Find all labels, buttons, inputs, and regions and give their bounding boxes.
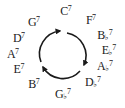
chord-extension: 7 bbox=[109, 28, 113, 37]
chord-extension: 7 bbox=[92, 13, 96, 22]
chord-extension: 7 bbox=[68, 4, 72, 13]
chord-extension: 7 bbox=[36, 15, 40, 24]
arrow-right-to-left bbox=[43, 67, 80, 79]
chord-extension: 7 bbox=[36, 77, 40, 86]
chord-e7: E7 bbox=[14, 61, 25, 78]
chord-f7: F7 bbox=[86, 12, 96, 29]
chord-root: B bbox=[97, 28, 105, 42]
chord-db7: D♭7 bbox=[85, 74, 101, 91]
chord-extension: 7 bbox=[67, 87, 71, 96]
chord-b7: B7 bbox=[28, 76, 40, 93]
chord-ab7: A♭7 bbox=[97, 58, 113, 75]
chord-extension: 7 bbox=[20, 62, 24, 71]
arrow-left-to-top bbox=[40, 31, 60, 62]
chord-a7: A7 bbox=[7, 46, 19, 63]
chord-extension: 7 bbox=[21, 31, 25, 40]
chord-extension: 7 bbox=[109, 59, 113, 68]
chord-extension: 7 bbox=[15, 47, 19, 56]
chord-c7: C7 bbox=[60, 3, 72, 20]
chord-d7: D7 bbox=[13, 30, 25, 47]
chord-extension: 7 bbox=[97, 75, 101, 84]
circle-of-fourths-diagram: C7 F7 B♭7 E♭7 A♭7 D♭7 G♭7 B7 E7 A7 D7 G7 bbox=[0, 0, 125, 108]
arrow-top-to-right bbox=[67, 33, 86, 65]
chord-gb7: G♭7 bbox=[55, 86, 71, 103]
chord-extension: 7 bbox=[112, 43, 116, 52]
chord-eb7: E♭7 bbox=[102, 42, 117, 59]
chord-g7: G7 bbox=[28, 14, 40, 31]
